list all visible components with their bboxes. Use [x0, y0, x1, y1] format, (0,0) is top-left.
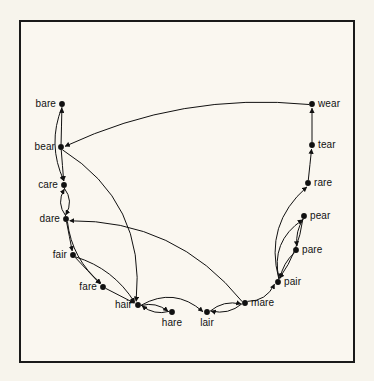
graph-drawing — [0, 0, 374, 381]
graph-node — [301, 213, 307, 219]
figure-canvas: barebearcaredarefairfarehairharelairmare… — [0, 0, 374, 381]
graph-node — [63, 216, 69, 222]
node-label-wear: wear — [318, 99, 340, 109]
graph-node — [309, 101, 315, 107]
graph-node — [242, 300, 248, 306]
node-label-mare: mare — [251, 298, 274, 308]
graph-node — [309, 142, 315, 148]
graph-node — [305, 180, 311, 186]
node-label-rare: rare — [314, 178, 332, 188]
graph-edge — [67, 222, 73, 251]
node-label-care: care — [38, 180, 58, 190]
graph-node — [293, 247, 299, 253]
graph-edge — [211, 304, 242, 312]
graph-edge — [64, 188, 69, 215]
node-label-bare: bare — [36, 99, 56, 109]
node-label-bear: bear — [35, 142, 55, 152]
node-label-pair: pair — [284, 277, 301, 287]
graph-edge — [308, 149, 311, 180]
graph-edge — [210, 303, 241, 311]
graph-node — [100, 284, 106, 290]
graph-node — [275, 279, 281, 285]
graph-node — [61, 182, 67, 188]
graph-edge — [62, 150, 137, 302]
node-label-dare: dare — [40, 214, 60, 224]
graph-edge — [65, 102, 309, 146]
graph-node — [70, 252, 76, 258]
graph-edge — [61, 189, 66, 216]
graph-node — [58, 144, 64, 150]
graph-edge — [61, 108, 62, 144]
node-label-tear: tear — [318, 140, 336, 150]
node-label-fare: fare — [79, 282, 97, 292]
graph-node — [59, 101, 65, 107]
node-label-pare: pare — [302, 245, 322, 255]
graph-node — [204, 309, 210, 315]
node-label-lair: lair — [200, 318, 214, 328]
node-label-fair: fair — [53, 250, 67, 260]
graph-node — [169, 309, 175, 315]
node-label-hare: hare — [162, 318, 182, 328]
graph-edge — [275, 187, 307, 279]
node-label-pear: pear — [310, 211, 330, 221]
graph-edge — [75, 257, 134, 303]
graph-node — [135, 302, 141, 308]
node-label-hair: hair — [115, 300, 132, 310]
